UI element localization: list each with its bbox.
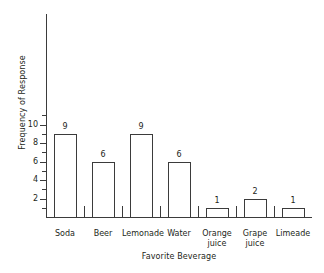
bar-value-label: 9 — [121, 123, 161, 131]
bar[interactable] — [206, 208, 229, 217]
y-axis-tick-minor — [42, 134, 47, 135]
bar-value-label: 1 — [273, 197, 313, 205]
x-axis-category-label: Grapejuice — [236, 229, 274, 248]
y-axis-tick-major — [40, 180, 47, 181]
x-axis-category-label: Lemonade — [122, 229, 160, 239]
bar-value-label: 9 — [45, 123, 85, 131]
x-axis-category-label-line: Grape — [236, 229, 274, 239]
bar[interactable] — [244, 199, 267, 218]
x-axis-line — [46, 217, 312, 218]
x-axis-category-separator — [198, 206, 199, 218]
x-axis-category-label-line: Water — [160, 229, 198, 239]
x-axis-category-label: Orangejuice — [198, 229, 236, 248]
x-axis-category-separator — [122, 206, 123, 218]
y-axis-tick-label: 10 — [28, 121, 38, 129]
x-axis-category-label: Water — [160, 229, 198, 239]
x-axis-category-label: Limeade — [274, 229, 312, 239]
x-axis-category-label-line: Lemonade — [122, 229, 160, 239]
x-axis-category-label: Soda — [46, 229, 84, 239]
y-axis-tick-label: 2 — [33, 195, 38, 203]
x-axis-category-label-line: Soda — [46, 229, 84, 239]
x-axis-category-label-line: juice — [198, 239, 236, 249]
bar-value-label: 1 — [197, 197, 237, 205]
y-axis-tick-major — [40, 143, 47, 144]
y-axis-tick-minor — [42, 152, 47, 153]
y-axis-tick-major — [40, 162, 47, 163]
x-axis-category-separator — [274, 206, 275, 218]
y-axis-tick-label: 8 — [33, 139, 38, 147]
y-axis-title: Frequency of Response — [18, 33, 27, 173]
y-axis-tick-minor — [42, 208, 47, 209]
x-axis-category-separator — [84, 206, 85, 218]
y-axis-tick-label: 6 — [33, 158, 38, 166]
x-axis-category-label: Beer — [84, 229, 122, 239]
x-axis-category-label-line: Limeade — [274, 229, 312, 239]
bar[interactable] — [168, 162, 191, 218]
bar-value-label: 6 — [83, 151, 123, 159]
bar[interactable] — [130, 134, 153, 217]
y-axis-tick-major — [40, 199, 47, 200]
bar-value-label: 2 — [235, 188, 275, 196]
x-axis-category-label-line: Orange — [198, 229, 236, 239]
bar-value-label: 6 — [159, 151, 199, 159]
x-axis-title: Favorite Beverage — [46, 252, 312, 261]
y-axis-tick-minor — [42, 189, 47, 190]
x-axis-category-separator — [236, 206, 237, 218]
bar[interactable] — [92, 162, 115, 218]
y-axis-tick-minor — [42, 115, 47, 116]
bar[interactable] — [54, 134, 77, 217]
x-axis-category-separator — [160, 206, 161, 218]
y-axis-tick-label: 4 — [33, 176, 38, 184]
x-axis-category-label-line: Beer — [84, 229, 122, 239]
x-axis-category-label-line: juice — [236, 239, 274, 249]
bar-chart: Frequency of Response Favorite Beverage … — [0, 0, 324, 273]
bar[interactable] — [282, 208, 305, 217]
y-axis-tick-minor — [42, 171, 47, 172]
